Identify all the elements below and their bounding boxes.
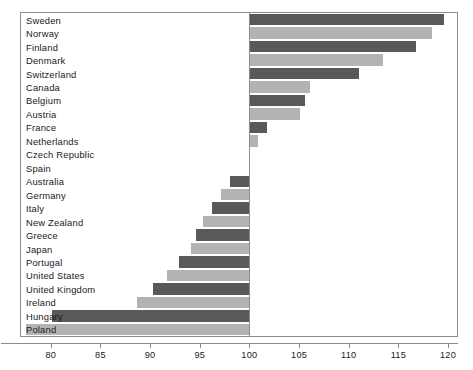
category-label: Sweden: [26, 14, 61, 25]
bar-row: Finland: [21, 40, 457, 53]
bar: [249, 108, 300, 119]
category-label: United Kingdom: [26, 283, 95, 294]
bar: [196, 229, 250, 240]
bar: [153, 283, 249, 294]
category-label: Switzerland: [26, 68, 77, 79]
bar: [230, 176, 250, 187]
bar: [249, 95, 305, 106]
category-label: Canada: [26, 82, 60, 93]
bar: [191, 243, 250, 254]
bar-row: United Kingdom: [21, 282, 457, 295]
x-tick-mark: [398, 343, 399, 348]
bar-row: Denmark: [21, 53, 457, 66]
x-tick-label: 100: [241, 350, 257, 360]
x-tick-label: 110: [341, 350, 356, 360]
category-label: Australia: [26, 176, 64, 187]
x-tick-mark: [448, 343, 449, 348]
category-label: Portugal: [26, 256, 62, 267]
bar: [167, 270, 249, 281]
bar: [249, 135, 258, 146]
bar: [249, 122, 267, 133]
category-label: Italy: [26, 203, 44, 214]
x-axis-line: [1, 343, 458, 344]
x-tick-mark: [299, 343, 300, 348]
bar-row: Portugal: [21, 255, 457, 268]
category-label: Netherlands: [26, 135, 79, 146]
x-tick-mark: [249, 343, 250, 348]
bar-row: Switzerland: [21, 67, 457, 80]
bar-row: Norway: [21, 26, 457, 39]
x-axis: 80859095100105110115120: [0, 343, 473, 370]
bar: [249, 27, 432, 38]
bar-row: United States: [21, 269, 457, 282]
bar: [179, 256, 250, 267]
bar-row: Canada: [21, 80, 457, 93]
category-label: Spain: [26, 162, 51, 173]
bar: [52, 310, 250, 321]
x-tick-mark: [51, 343, 52, 348]
x-tick-label: 80: [45, 350, 56, 360]
bar-row: Netherlands: [21, 134, 457, 147]
baseline-100-line: [249, 13, 250, 336]
bar-row: Sweden: [21, 13, 457, 26]
category-label: United States: [26, 270, 85, 281]
bar: [221, 189, 250, 200]
x-tick-mark: [100, 343, 101, 348]
bar: [26, 324, 249, 335]
bar: [249, 14, 444, 25]
bar-row: Poland: [21, 323, 457, 336]
x-tick-label: 85: [95, 350, 106, 360]
bar: [249, 41, 416, 52]
category-label: Hungary: [26, 310, 63, 321]
bar-row: Japan: [21, 242, 457, 255]
category-label: Denmark: [26, 55, 65, 66]
bar-row: Hungary: [21, 309, 457, 322]
category-label: Czech Republic: [26, 149, 94, 160]
bar-row: France: [21, 121, 457, 134]
x-tick-label: 120: [440, 350, 456, 360]
bar-row: Germany: [21, 188, 457, 201]
bar: [137, 297, 249, 308]
bar: [203, 216, 250, 227]
x-tick-mark: [150, 343, 151, 348]
bar-row: Italy: [21, 201, 457, 214]
bar: [249, 81, 310, 92]
category-label: Belgium: [26, 95, 61, 106]
bar-rows-container: SwedenNorwayFinlandDenmarkSwitzerlandCan…: [21, 13, 457, 336]
bar-row: New Zealand: [21, 215, 457, 228]
category-label: Norway: [26, 28, 59, 39]
bar-row: Greece: [21, 228, 457, 241]
category-label: Japan: [26, 243, 52, 254]
bar: [249, 68, 358, 79]
category-label: New Zealand: [26, 216, 83, 227]
bar-row: Belgium: [21, 94, 457, 107]
category-label: Poland: [26, 324, 56, 335]
bar-row: Australia: [21, 175, 457, 188]
category-label: Ireland: [26, 297, 56, 308]
category-label: Greece: [26, 230, 58, 241]
horizontal-bar-chart: SwedenNorwayFinlandDenmarkSwitzerlandCan…: [0, 0, 473, 370]
category-label: France: [26, 122, 56, 133]
bar: [212, 202, 250, 213]
bar-row: Spain: [21, 161, 457, 174]
x-tick-label: 115: [391, 350, 406, 360]
category-label: Austria: [26, 108, 57, 119]
category-label: Germany: [26, 189, 66, 200]
x-tick-mark: [349, 343, 350, 348]
bar: [249, 54, 382, 65]
x-tick-mark: [200, 343, 201, 348]
bar-row: Austria: [21, 107, 457, 120]
x-tick-label: 105: [291, 350, 307, 360]
bar-row: Czech Republic: [21, 148, 457, 161]
category-label: Finland: [26, 41, 58, 52]
bar-row: Ireland: [21, 296, 457, 309]
x-tick-label: 90: [145, 350, 156, 360]
x-tick-label: 95: [194, 350, 205, 360]
